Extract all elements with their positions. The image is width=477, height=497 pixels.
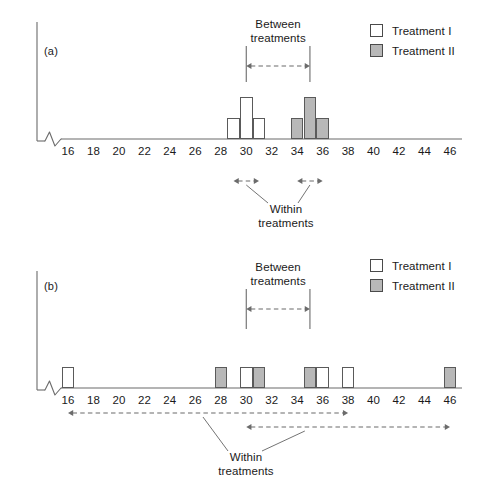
x-axis-tick-label: 44 (413, 145, 437, 157)
arrow-head-left-icon (246, 63, 251, 69)
between-treatments-arrow (246, 306, 310, 312)
x-axis-tick-label: 40 (362, 394, 386, 406)
x-axis-tick-label: 40 (362, 145, 386, 157)
plot-area-b: (b) Treatment I Treatment II Between tre… (0, 249, 477, 497)
arrow-head-right-icon (445, 424, 450, 430)
arrow-head-right-icon (305, 63, 310, 69)
x-axis-tick-label: 24 (158, 145, 182, 157)
leader-line (203, 417, 228, 451)
x-axis-tick-label: 28 (209, 394, 233, 406)
x-axis-tick-label: 32 (260, 145, 284, 157)
histogram-bar (342, 367, 355, 388)
x-axis-tick-label: 44 (413, 394, 437, 406)
x-axis-tick-label: 16 (56, 145, 80, 157)
x-axis-tick-label: 34 (285, 394, 309, 406)
histogram-bar (304, 367, 317, 388)
arrow-head-right-icon (305, 306, 310, 312)
x-axis-tick-label: 42 (387, 145, 411, 157)
x-axis-tick-label: 36 (311, 145, 335, 157)
x-axis-tick-label: 16 (56, 394, 80, 406)
histogram-bar (253, 118, 266, 139)
arrow-head-left-icon (246, 424, 251, 430)
histogram-bar (253, 367, 266, 388)
x-axis-tick-label: 36 (311, 394, 335, 406)
arrow-head-right-icon (343, 410, 348, 416)
panel-b: (b) Treatment I Treatment II Between tre… (0, 249, 477, 497)
x-axis-tick-label: 22 (132, 145, 156, 157)
x-axis-tick-label: 24 (158, 394, 182, 406)
arrow-head-left-icon (246, 306, 251, 312)
within-treatments-arrow (246, 424, 450, 430)
leader-line (298, 185, 310, 203)
histogram-bar (240, 367, 253, 388)
x-axis-tick-label: 46 (438, 145, 462, 157)
plot-area-a: (a) Treatment I Treatment II Between tre… (0, 0, 477, 248)
arrow-head-right-icon (254, 178, 259, 184)
arrow-head-right-icon (317, 178, 322, 184)
panel-a: (a) Treatment I Treatment II Between tre… (0, 0, 477, 248)
x-axis-tick-label: 26 (183, 394, 207, 406)
x-axis-tick-label: 30 (234, 394, 258, 406)
histogram-bar (215, 367, 228, 388)
x-axis-tick-label: 26 (183, 145, 207, 157)
x-axis-tick-label: 46 (438, 394, 462, 406)
within-treatments-arrow (234, 178, 259, 184)
histogram-bar (62, 367, 75, 388)
x-axis-tick-label: 18 (81, 394, 105, 406)
leader-line (262, 431, 305, 451)
histogram-bar (227, 118, 240, 139)
axis-break-zigzag-icon (45, 132, 61, 146)
histogram-bar (291, 118, 304, 139)
x-axis-tick-label: 38 (336, 394, 360, 406)
leader-line (246, 185, 268, 203)
x-axis-tick-label: 18 (81, 145, 105, 157)
x-axis-tick-label: 38 (336, 145, 360, 157)
within-treatments-arrow (68, 410, 348, 416)
x-axis-tick-label: 34 (285, 145, 309, 157)
arrow-head-left-icon (234, 178, 239, 184)
histogram-bar (316, 118, 329, 139)
x-axis-tick-label: 30 (234, 145, 258, 157)
x-axis-tick-label: 28 (209, 145, 233, 157)
arrow-head-left-icon (297, 178, 302, 184)
x-axis-tick-label: 20 (107, 145, 131, 157)
histogram-bar (316, 367, 329, 388)
between-treatments-arrow (246, 63, 310, 69)
x-axis-tick-label: 42 (387, 394, 411, 406)
arrow-head-left-icon (68, 410, 73, 416)
histogram-bar (304, 97, 317, 139)
x-axis-tick-label: 20 (107, 394, 131, 406)
x-axis-tick-label: 22 (132, 394, 156, 406)
histogram-bar (240, 97, 253, 139)
within-treatments-arrow (297, 178, 322, 184)
axis-break-zigzag-icon (45, 381, 61, 395)
x-axis-tick-label: 32 (260, 394, 284, 406)
histogram-bar (444, 367, 457, 388)
